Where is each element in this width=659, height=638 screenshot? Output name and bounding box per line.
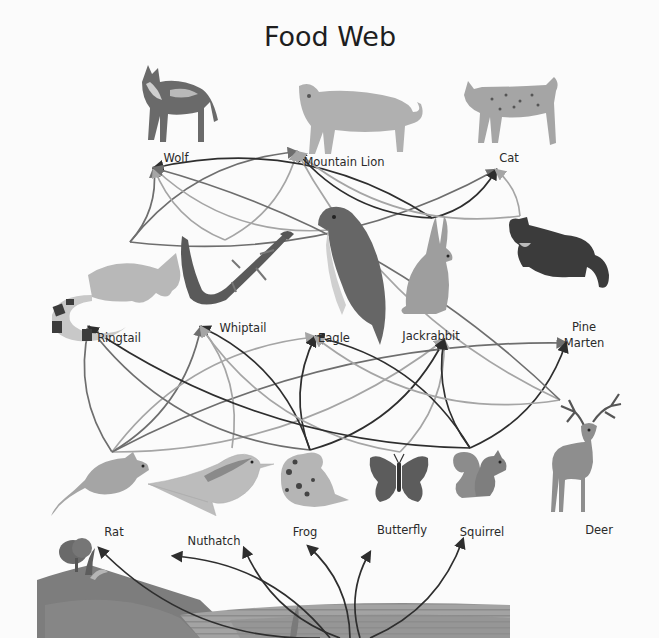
label-rat: Rat [104, 525, 124, 539]
arrow-squirrel-to-jackrabbit [442, 340, 470, 448]
arrow-eagle-to-wolf [154, 168, 330, 231]
arrow-jackrabbit-to-wolf [154, 158, 432, 218]
nuthatch-icon [148, 454, 274, 516]
arrow-ringtail-to-wolf [130, 168, 155, 242]
label-butterfly: Butterfly [377, 523, 427, 537]
jackrabbit-icon [401, 216, 452, 314]
label-cat: Cat [499, 151, 519, 165]
butterfly-icon [370, 454, 429, 502]
label-mountain-lion: Mountain Lion [303, 155, 384, 169]
wolf-icon [142, 65, 218, 142]
label-nuthatch: Nuthatch [188, 534, 241, 548]
deer-icon [551, 394, 621, 512]
label-ringtail: Ringtail [97, 331, 141, 345]
squirrel-icon [453, 450, 506, 498]
food-web-diagram: Food Web [0, 0, 659, 638]
label-jackrabbit: Jackrabbit [401, 329, 460, 343]
mountain-lion-icon [299, 84, 423, 154]
label-deer: Deer [585, 523, 613, 537]
label-frog: Frog [293, 525, 318, 539]
label-pine-marten-line2: Marten [564, 336, 605, 350]
arrow-pine-marten-to-cat [496, 170, 520, 216]
arrow-rat-to-jackrabbit [112, 340, 444, 452]
arrow-rat-to-pine-marten [112, 343, 566, 452]
arrow-jackrabbit-to-cat [432, 170, 496, 218]
label-eagle: Eagle [318, 331, 350, 345]
arrow-frog-to-eagle [300, 337, 315, 450]
label-wolf: Wolf [164, 151, 190, 165]
label-pine-marten-line1: Pine [572, 320, 596, 334]
rat-icon [51, 452, 149, 516]
arrow-rat-to-ringtail [84, 327, 112, 452]
arrow-rat-to-whiptail [112, 327, 201, 452]
label-whiptail: Whiptail [219, 321, 266, 335]
frog-icon [281, 452, 349, 507]
cat-icon [464, 77, 558, 145]
arrow-nuthatch-to-whiptail [201, 327, 234, 448]
ringtail-icon [52, 253, 180, 341]
whiptail-lizard-icon [181, 231, 294, 305]
diagram-title: Food Web [264, 21, 396, 52]
pine-marten-icon [509, 217, 609, 288]
label-squirrel: Squirrel [460, 525, 504, 539]
eagle-icon [318, 207, 386, 345]
